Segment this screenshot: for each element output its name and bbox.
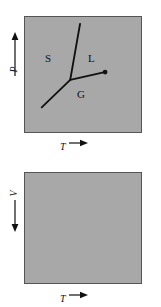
pressure-axis: P <box>4 30 26 82</box>
temperature-axis-label-bottom: T <box>60 293 66 304</box>
temperature-axis-label-top: T <box>60 141 66 152</box>
sublimation-curve <box>42 80 71 108</box>
phase-boundary-curves <box>25 17 141 132</box>
temperature-axis-bottom: T <box>60 288 66 306</box>
fusion-curve <box>70 24 80 80</box>
temperature-axis-arrow-icon-bottom <box>69 290 89 300</box>
region-label-gas: G <box>77 89 85 100</box>
vaporization-curve <box>70 72 104 80</box>
region-label-liquid: L <box>88 53 95 64</box>
volume-temperature-empty-canvas <box>25 173 141 283</box>
temperature-axis-top: T <box>60 136 66 154</box>
region-label-solid: S <box>45 53 51 64</box>
temperature-axis-arrow-icon-top <box>69 138 89 148</box>
pressure-axis-label: P <box>8 59 19 81</box>
critical-point-dot <box>103 70 108 75</box>
volume-axis: V <box>4 186 26 234</box>
volume-axis-label: V <box>8 183 19 205</box>
volume-temperature-plot-area <box>24 172 142 284</box>
figure-phase-diagrams: S L G P T V T <box>0 0 161 307</box>
pressure-temperature-plot-area: S L G <box>24 16 142 133</box>
